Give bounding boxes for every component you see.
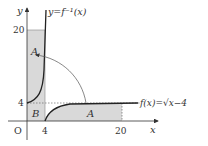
region-a-top-label: A [30,46,38,57]
region-b-label: B [31,108,39,119]
origin-label: O [14,125,22,136]
tick-x-4: 4 [42,126,48,136]
tick-y-4: 4 [18,98,24,108]
x-axis-label: x [150,124,156,135]
region-a-top-shade [27,30,45,103]
region-a-bottom-label: A [86,108,94,119]
function-label: f(x)=√x−4 [139,98,187,108]
region-a-bottom-shade [45,103,122,121]
tick-x-20: 20 [115,126,127,136]
inverse-function-diagram: y x O 20 4 4 20 A B A y=f⁻¹(x) f(x)=√x−4 [0,0,208,146]
tick-y-20: 20 [13,25,25,35]
inverse-function-label: y=f⁻¹(x) [47,6,87,17]
y-axis-label: y [16,5,23,16]
